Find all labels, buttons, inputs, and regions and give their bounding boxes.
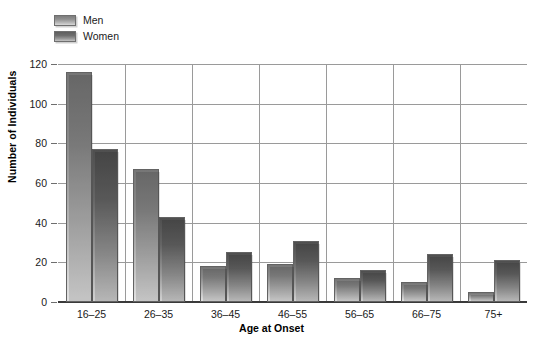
bar-men[interactable] — [66, 72, 92, 302]
x-tick-label: 26–35 — [144, 308, 173, 320]
legend-item-men: Men — [54, 14, 119, 27]
x-tick-label: 46–55 — [278, 308, 307, 320]
bar-women[interactable] — [360, 270, 386, 302]
y-tick-label: 0 — [41, 296, 47, 308]
x-tick-label: 16–25 — [77, 308, 106, 320]
legend-swatch-women-icon — [54, 31, 76, 42]
bar-men[interactable] — [468, 292, 494, 302]
bars-container — [58, 64, 527, 302]
bar-group — [259, 64, 326, 302]
bar-shadow — [430, 257, 454, 301]
bar-men[interactable] — [133, 169, 159, 302]
bar-shadow — [497, 263, 521, 301]
x-tick-divider — [326, 64, 327, 302]
y-tick-mark — [51, 64, 57, 65]
legend-item-women: Women — [54, 30, 119, 43]
chart-legend: Men Women — [54, 14, 119, 43]
y-tick-label: 20 — [35, 256, 47, 268]
y-axis-title: Number of Individuals — [6, 71, 18, 183]
bar-women[interactable] — [293, 241, 319, 302]
bar-shadow — [404, 285, 428, 301]
x-tick-divider — [192, 64, 193, 302]
bar-shadow — [296, 244, 320, 301]
bar-men[interactable] — [334, 278, 360, 302]
x-tick-divider — [259, 64, 260, 302]
y-tick-mark — [51, 302, 57, 303]
y-tick-label: 60 — [35, 177, 47, 189]
bar-men[interactable] — [200, 266, 226, 302]
bar-shadow — [95, 152, 119, 301]
x-tick-label: 36–45 — [211, 308, 240, 320]
x-tick-divider — [125, 64, 126, 302]
x-tick-label: 75+ — [485, 308, 503, 320]
bar-group — [192, 64, 259, 302]
y-tick-label: 40 — [35, 217, 47, 229]
y-tick-mark — [51, 223, 57, 224]
legend-swatch-men-icon — [54, 15, 76, 26]
x-tick-divider — [460, 64, 461, 302]
y-tick-mark — [51, 183, 57, 184]
bar-women[interactable] — [494, 260, 520, 302]
bar-group — [125, 64, 192, 302]
y-tick-label: 80 — [35, 137, 47, 149]
bar-group — [460, 64, 527, 302]
bar-men[interactable] — [267, 264, 293, 302]
bar-shadow — [337, 281, 361, 301]
legend-label-women: Women — [83, 31, 119, 42]
x-tick-label: 66–75 — [412, 308, 441, 320]
bar-shadow — [363, 273, 387, 301]
x-tick-divider — [393, 64, 394, 302]
legend-label-men: Men — [83, 15, 103, 26]
bar-group — [393, 64, 460, 302]
chart-page: Men Women Number of Individuals 02040608… — [0, 0, 543, 349]
x-axis-title: Age at Onset — [0, 322, 543, 334]
bar-shadow — [229, 255, 253, 301]
bar-shadow — [270, 267, 294, 301]
bar-shadow — [471, 295, 495, 301]
bar-shadow — [162, 220, 186, 301]
bar-shadow — [136, 172, 160, 301]
bar-women[interactable] — [226, 252, 252, 302]
x-tick-label: 56–65 — [345, 308, 374, 320]
y-tick-label: 100 — [29, 98, 47, 110]
bar-women[interactable] — [159, 217, 185, 302]
bar-group — [326, 64, 393, 302]
y-tick-label: 120 — [29, 58, 47, 70]
y-tick-mark — [51, 104, 57, 105]
bar-women[interactable] — [92, 149, 118, 302]
bar-men[interactable] — [401, 282, 427, 302]
plot-area: 020406080100120 16–2526–3536–4546–5556–6… — [58, 64, 527, 302]
bar-group — [58, 64, 125, 302]
bar-shadow — [69, 75, 93, 301]
y-tick-mark — [51, 262, 57, 263]
bar-shadow — [203, 269, 227, 301]
y-tick-mark — [51, 143, 57, 144]
bar-women[interactable] — [427, 254, 453, 302]
